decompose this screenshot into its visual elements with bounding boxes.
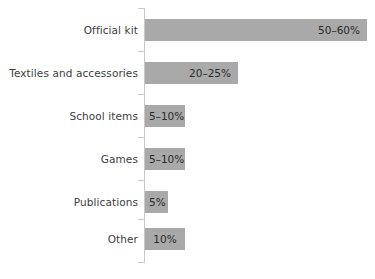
bar-value-label: 5–10% (149, 148, 184, 170)
bar-container: 5% (145, 191, 168, 213)
bar-chart: Official kit 50–60% Textiles and accesso… (0, 0, 375, 279)
bar-row: Textiles and accessories 20–25% (0, 62, 375, 84)
bar-value-label: 5% (149, 191, 166, 213)
bar-value-label: 5–10% (149, 105, 184, 127)
bar-row: Other 10% (0, 228, 375, 250)
category-label: Official kit (0, 19, 138, 41)
bar-rows: Official kit 50–60% Textiles and accesso… (0, 0, 375, 279)
bar-container: 5–10% (145, 105, 185, 127)
bar-row: Publications 5% (0, 191, 375, 213)
bar-value-label: 10% (145, 228, 185, 250)
category-label: School items (0, 105, 138, 127)
category-label: Games (0, 148, 138, 170)
bar-container: 5–10% (145, 148, 185, 170)
bar-row: Official kit 50–60% (0, 19, 375, 41)
bar-row: Games 5–10% (0, 148, 375, 170)
bar-container: 10% (145, 228, 185, 250)
category-label: Other (0, 228, 138, 250)
bar-container: 20–25% (145, 62, 238, 84)
bar-value-label: 50–60% (318, 19, 360, 41)
bar-row: School items 5–10% (0, 105, 375, 127)
bar-container: 50–60% (145, 19, 367, 41)
bar-value-label: 20–25% (189, 62, 231, 84)
category-label: Publications (0, 191, 138, 213)
category-label: Textiles and accessories (0, 62, 138, 84)
